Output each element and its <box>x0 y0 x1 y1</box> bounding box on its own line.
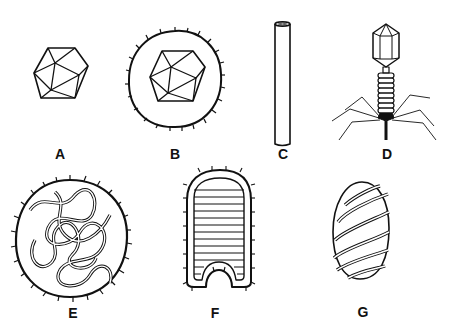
bullet-shaped-f <box>183 166 255 291</box>
enveloped-coiled-e <box>11 175 132 302</box>
label-a: A <box>55 147 65 161</box>
icosahedral-capsid-a <box>34 48 88 98</box>
helical-rod-c <box>275 22 290 146</box>
label-b: B <box>170 147 180 161</box>
label-f: F <box>211 306 220 320</box>
label-d: D <box>382 147 392 161</box>
virus-morphology-diagram <box>0 0 454 336</box>
label-g: G <box>358 305 369 319</box>
bacteriophage-d <box>332 24 436 140</box>
label-e: E <box>68 306 77 320</box>
enveloped-capsid-b <box>125 27 225 131</box>
spiral-ovoid-g <box>333 182 389 279</box>
label-c: C <box>278 147 288 161</box>
